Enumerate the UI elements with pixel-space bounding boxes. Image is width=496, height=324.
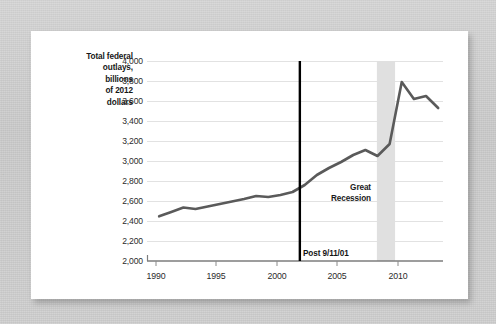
line-chart: Total federal outlays, billions of 2012 … bbox=[31, 31, 468, 299]
plot-svg bbox=[31, 31, 468, 299]
great-recession-band bbox=[377, 61, 395, 261]
figure-card: Total federal outlays, billions of 2012 … bbox=[31, 31, 468, 299]
scan-edge-artifact: · bbox=[2, 172, 8, 184]
outlays-line bbox=[159, 82, 438, 216]
